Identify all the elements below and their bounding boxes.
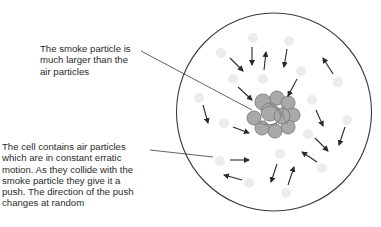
motion-arrow bbox=[233, 127, 249, 133]
air-particle bbox=[284, 36, 294, 46]
motion-arrow bbox=[316, 110, 323, 126]
motion-arrow bbox=[284, 49, 287, 67]
air-particle bbox=[228, 74, 238, 84]
air-particle bbox=[219, 118, 229, 128]
air-particle bbox=[342, 115, 352, 125]
motion-arrow bbox=[302, 152, 317, 162]
motion-arrow bbox=[315, 138, 328, 151]
air-particle bbox=[248, 33, 258, 43]
air-particle bbox=[303, 129, 313, 139]
air-particle bbox=[244, 178, 254, 188]
air-particle bbox=[194, 93, 204, 103]
air-particle bbox=[275, 149, 285, 159]
air-label-leader-line bbox=[150, 150, 213, 157]
motion-arrow bbox=[339, 127, 345, 145]
motion-arrow bbox=[264, 52, 266, 70]
air-particle bbox=[333, 77, 343, 87]
smoke-particle bbox=[247, 91, 300, 138]
air-particle bbox=[258, 74, 268, 84]
air-particle bbox=[215, 156, 225, 166]
motion-arrow bbox=[224, 175, 242, 180]
motion-arrow bbox=[271, 164, 277, 182]
motion-arrow bbox=[203, 105, 208, 123]
air-particle bbox=[281, 188, 291, 198]
air-particle bbox=[216, 48, 226, 58]
air-particle bbox=[317, 163, 327, 173]
motion-arrow bbox=[323, 58, 333, 74]
air-particle bbox=[296, 66, 306, 76]
brownian-motion-diagram bbox=[0, 0, 381, 227]
air-particle bbox=[307, 95, 317, 105]
motion-arrow bbox=[288, 79, 297, 96]
motion-arrow bbox=[288, 167, 294, 185]
motion-arrow bbox=[230, 58, 243, 71]
motion-arrow bbox=[238, 87, 252, 100]
